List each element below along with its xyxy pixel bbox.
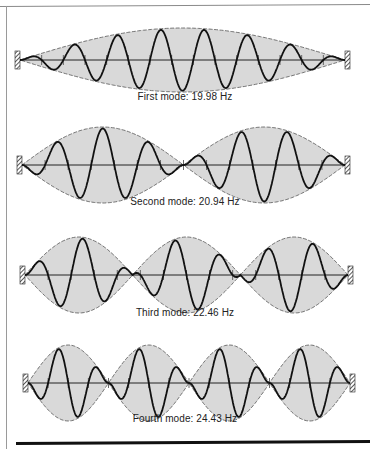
right-support-icon xyxy=(348,266,353,284)
left-support-icon xyxy=(23,374,28,392)
right-support-icon xyxy=(345,51,350,69)
vibration-modes-diagram xyxy=(0,0,370,449)
right-support-icon xyxy=(345,156,350,174)
first-mode-caption: First mode: 19.98 Hz xyxy=(0,91,370,102)
left-support-icon xyxy=(20,266,25,284)
left-support-icon xyxy=(17,156,22,174)
left-support-icon xyxy=(15,51,20,69)
fourth-mode-shape xyxy=(23,345,355,421)
third-mode-caption: Third mode: 22.46 Hz xyxy=(0,307,370,318)
right-support-icon xyxy=(350,374,355,392)
third-mode-shape xyxy=(20,237,353,313)
fourth-mode-caption: Fourth mode: 24.43 Hz xyxy=(0,413,370,424)
second-mode-shape xyxy=(17,127,350,203)
first-mode-shape xyxy=(15,28,350,92)
second-mode-caption: Second mode: 20.94 Hz xyxy=(0,196,370,207)
